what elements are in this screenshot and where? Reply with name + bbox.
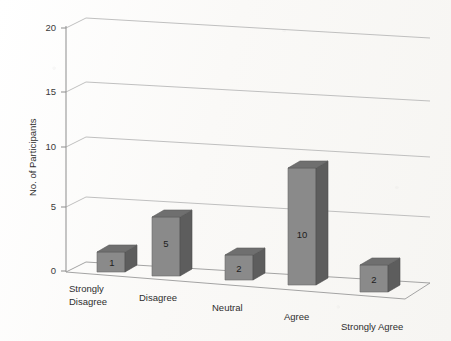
y-tick-label-5: 5 — [51, 201, 56, 212]
y-axis-title: No. of Participants — [27, 118, 38, 196]
gridline-10 — [66, 137, 430, 157]
bar-agree[interactable]: 10 — [288, 161, 328, 285]
y-tick-label-0: 0 — [51, 265, 56, 276]
chart-svg: 20 15 10 5 0 No. of Participants 1 5 — [0, 0, 451, 341]
bar-chart: 20 15 10 5 0 No. of Participants 1 5 — [0, 0, 451, 341]
bar-strongly-agree[interactable]: 2 — [360, 258, 400, 292]
y-tick-label-15: 15 — [45, 86, 56, 97]
gridline-5 — [66, 197, 430, 217]
bar-side-face — [180, 210, 192, 276]
y-axis — [61, 26, 66, 272]
bar-strongly-disagree[interactable]: 1 — [97, 245, 137, 272]
bar-side-face — [316, 161, 328, 285]
cat-label-strongly-agree: Strongly Agree — [341, 321, 403, 332]
bar-front-face — [288, 168, 316, 285]
bar-value-label: 2 — [371, 274, 376, 285]
bar-value-label: 10 — [297, 229, 308, 240]
floor-right-edge — [405, 283, 430, 299]
cat-label-neutral: Neutral — [212, 302, 243, 313]
y-tick-label-10: 10 — [45, 141, 56, 152]
cat-label-agree: Agree — [284, 311, 309, 322]
gridline-20 — [66, 18, 430, 38]
y-tick-label-20: 20 — [45, 22, 56, 33]
bar-value-label: 2 — [236, 263, 241, 274]
bar-neutral[interactable]: 2 — [225, 248, 265, 280]
cat-label-strongly-disagree-line1: Strongly — [69, 283, 104, 294]
bar-value-label: 1 — [109, 257, 114, 268]
gridline-15 — [66, 82, 430, 101]
bar-disagree[interactable]: 5 — [152, 210, 192, 276]
bar-value-label: 5 — [163, 238, 168, 249]
floor-left-edge — [66, 262, 86, 272]
cat-label-strongly-disagree-line2: Disagree — [69, 296, 107, 307]
grid-group — [66, 18, 430, 217]
cat-label-disagree: Disagree — [139, 292, 177, 303]
